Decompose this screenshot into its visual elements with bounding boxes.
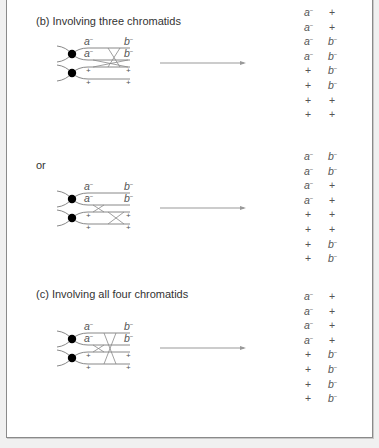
genotype-cell: + [329,21,335,33]
genotype-cell: a− [304,165,313,177]
genotype-cell: + [305,94,311,106]
allele-label-b: b− [124,332,133,344]
genotype-cell: b− [328,165,337,177]
genotype-cell: a− [304,334,313,346]
genotype-cell: a− [304,290,313,302]
centromere-icon [68,335,76,343]
genotype-cell: a− [304,21,313,33]
genotype-cell: b− [328,50,337,62]
allele-label-a: a− [84,192,93,204]
centromere-icon [68,195,76,203]
allele-label-a: a− [84,35,93,47]
allele-label-plus: + [86,211,91,220]
genotype-cell: + [329,194,335,206]
genotype-cell: + [305,223,311,235]
allele-label-plus: + [126,211,131,220]
genotype-cell: + [329,305,335,317]
genotype-cell: a− [304,50,313,62]
allele-label-a: a− [84,320,93,332]
allele-label-a: a− [84,332,93,344]
genotype-cell: + [305,348,311,360]
genotype-cell: + [305,64,311,76]
genotype-cell: + [305,108,311,120]
genotype-cell: a− [304,194,313,206]
allele-label-a: a− [84,180,93,192]
genotype-cell: + [329,208,335,220]
centromere-icon [68,69,76,77]
allele-label-b: b− [124,180,133,192]
genotype-cell: + [329,223,335,235]
genotype-cell: b− [328,79,337,91]
genotype-cell: + [329,319,335,331]
genotype-cell: + [329,6,335,18]
genotype-cell: a− [304,35,313,47]
genotype-cell: + [305,363,311,375]
allele-label-plus: + [126,363,131,372]
allele-label-plus: + [126,66,131,75]
allele-label-plus: + [86,78,91,87]
genotype-cell: b− [328,378,337,390]
genotype-cell: + [329,94,335,106]
genotype-cell: + [329,108,335,120]
allele-label-b: b− [124,47,133,59]
genotype-cell: b− [328,252,337,264]
genotype-cell: a− [304,305,313,317]
genotype-cell: b− [328,348,337,360]
genotype-cell: a− [304,179,313,191]
genotype-cell: + [305,392,311,404]
genotype-cell: b− [328,238,337,250]
genotype-cell: b− [328,392,337,404]
genotype-cell: + [305,208,311,220]
allele-label-plus: + [126,351,131,360]
genotype-cell: + [305,79,311,91]
genotype-cell: b− [328,35,337,47]
genotype-cell: b− [328,363,337,375]
allele-label-plus: + [86,223,91,232]
centromere-icon [68,50,76,58]
genotype-cell: a− [304,6,313,18]
allele-label-a: a− [84,47,93,59]
allele-label-plus: + [86,66,91,75]
genotype-cell: + [329,179,335,191]
centromere-icon [68,354,76,362]
genotype-cell: + [329,334,335,346]
allele-label-plus: + [86,363,91,372]
centromere-icon [68,214,76,222]
genotype-cell: b− [328,64,337,76]
allele-label-b: b− [124,320,133,332]
chromatid-diagrams [0,0,379,448]
genotype-cell: + [305,252,311,264]
allele-label-plus: + [126,78,131,87]
allele-label-b: b− [124,35,133,47]
genotype-cell: + [305,378,311,390]
genotype-cell: + [329,290,335,302]
genotype-cell: a− [304,319,313,331]
genotype-cell: a− [304,150,313,162]
genotype-cell: b− [328,150,337,162]
allele-label-b: b− [124,192,133,204]
allele-label-plus: + [86,351,91,360]
genotype-cell: + [305,238,311,250]
allele-label-plus: + [126,223,131,232]
